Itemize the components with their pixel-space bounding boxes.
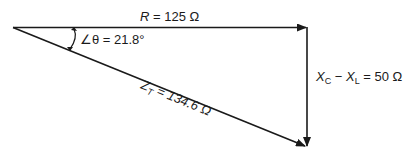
reactance-label: XC − XL = 50 Ω (315, 69, 403, 86)
impedance-triangle-diagram: R = 125 Ω ∠θ = 21.8° XC − XL = 50 Ω ZT =… (0, 0, 403, 153)
resistance-label: R = 125 Ω (140, 9, 200, 24)
impedance-label: ZT = 134.6 Ω (137, 76, 213, 120)
angle-label: ∠θ = 21.8° (80, 32, 145, 47)
angle-arc (70, 29, 75, 49)
